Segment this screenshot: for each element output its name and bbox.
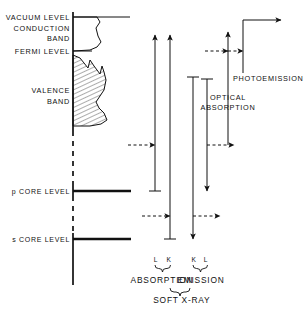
level-labels: VACUUM LEVEL CONDUCTION BAND FERMI LEVEL… <box>6 13 70 243</box>
process-photoemission <box>228 20 281 73</box>
bracket-emission <box>193 265 208 272</box>
bracket-absorption <box>155 265 171 272</box>
label-optical-absorption-line1: OPTICAL <box>210 93 246 102</box>
process-labels: PHOTOEMISSION OPTICAL ABSORPTION <box>201 74 304 112</box>
label-optical-absorption-line2: ABSORPTION <box>201 103 256 112</box>
label-vacuum-level: VACUUM LEVEL <box>6 13 70 22</box>
group-labels: ABSORPTION EMISSION SOFT X-RAY <box>131 275 225 305</box>
label-conduction-band-line2: BAND <box>47 34 70 43</box>
label-photoemission: PHOTOEMISSION <box>233 74 304 83</box>
conduction-band-dos-curve <box>73 17 101 51</box>
label-x-ray: X-RAY <box>182 295 211 305</box>
label-valence-band-line2: BAND <box>47 97 70 106</box>
process-optical-absorption <box>205 32 228 145</box>
label-emission: EMISSION <box>177 275 224 285</box>
label-fermi-level: FERMI LEVEL <box>15 47 70 56</box>
transition-absorption-L <box>128 35 161 191</box>
label-conduction-band-line1: CONDUCTION <box>14 24 70 33</box>
label-p-core-level: p CORE LEVEL <box>12 188 70 196</box>
sublabel-emission-L: L <box>204 256 208 263</box>
bracket-labels: L K K L <box>154 256 208 263</box>
sublabel-absorption-K: K <box>167 256 172 263</box>
transition-absorption-K <box>142 35 176 239</box>
energy-level-diagram: VACUUM LEVEL CONDUCTION BAND FERMI LEVEL… <box>0 0 306 311</box>
valence-band-shading <box>73 55 107 126</box>
label-valence-band-line1: VALENCE <box>32 86 70 95</box>
sublabel-absorption-L: L <box>154 256 158 263</box>
sublabel-emission-K: K <box>192 256 197 263</box>
label-s-core-level: s CORE LEVEL <box>12 236 70 243</box>
label-soft: SOFT <box>153 295 179 305</box>
